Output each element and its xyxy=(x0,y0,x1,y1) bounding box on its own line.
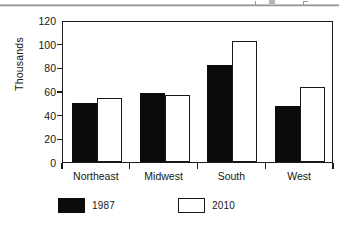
plot-frame xyxy=(62,21,333,163)
bar-midwest-2010 xyxy=(165,95,190,162)
x-axis-tick-mark xyxy=(265,163,266,169)
y-axis-tick-label: 20 xyxy=(26,133,56,145)
x-axis-tick-label: Midwest xyxy=(130,170,198,182)
x-axis-tick-mark xyxy=(197,163,198,169)
x-axis-tick-mark xyxy=(332,163,333,169)
bar-west-2010 xyxy=(300,87,325,162)
y-axis-tick-label: 40 xyxy=(26,110,56,122)
legend-entry-2010: 2010 xyxy=(178,196,235,214)
bar-south-2010 xyxy=(232,41,257,162)
bar-northeast-1987 xyxy=(72,103,97,162)
bar-south-1987 xyxy=(207,65,232,162)
y-axis-tick-label: 120 xyxy=(26,15,56,27)
bar-group xyxy=(266,20,334,162)
bar-group xyxy=(199,20,267,162)
legend-swatch-2010 xyxy=(178,198,205,213)
y-axis-tick-label: 60 xyxy=(26,86,56,98)
legend-label: 1987 xyxy=(92,200,115,211)
bar-group xyxy=(63,20,131,162)
y-axis-tick-label: 0 xyxy=(26,157,56,169)
legend-swatch-1987 xyxy=(58,198,85,213)
y-axis-tick-label: 80 xyxy=(26,62,56,74)
legend-label: 2010 xyxy=(212,200,235,211)
y-axis-title: Thousands xyxy=(13,19,25,109)
x-axis-tick-label: South xyxy=(198,170,266,182)
bar-chart: Thousands 020406080100120 NortheastMidwe… xyxy=(0,0,339,227)
bar-midwest-1987 xyxy=(140,93,165,162)
bar-northeast-2010 xyxy=(97,98,122,162)
bar-group xyxy=(131,20,199,162)
x-axis-tick-marks xyxy=(62,163,333,169)
y-axis-tick-label: 100 xyxy=(26,39,56,51)
x-axis-tick-mark xyxy=(61,163,62,169)
x-axis-tick-label: Northeast xyxy=(62,170,130,182)
legend-entry-1987: 1987 xyxy=(58,196,115,214)
y-axis-tick-labels: 020406080100120 xyxy=(26,14,56,170)
x-axis-tick-labels: NortheastMidwestSouthWest xyxy=(62,170,333,186)
bar-west-1987 xyxy=(275,106,300,162)
x-axis-tick-label: West xyxy=(265,170,333,182)
x-axis-tick-mark xyxy=(129,163,130,169)
